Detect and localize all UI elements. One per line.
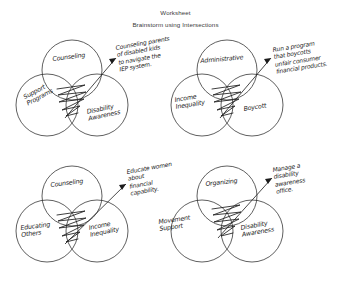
- venn-top-right-label-bottom-left: Income Inequality: [174, 91, 205, 109]
- venn-top-right-annotation: Run a program that boycotts unfair consu…: [272, 38, 328, 75]
- page-title: Worksheet: [0, 8, 351, 18]
- venn-top-right-circle-top: [197, 40, 257, 100]
- worksheet-header: Worksheet Brainstorm using Intersections: [0, 8, 351, 30]
- worksheet-page: Worksheet Brainstorm using Intersections: [0, 0, 351, 294]
- venn-top-left-arrowhead-icon: [109, 58, 116, 64]
- venn-bottom-left-circle-top: [42, 166, 102, 226]
- venn-top-left-label-bottom-left: Support Programs: [22, 81, 54, 107]
- page-subtitle: Brainstorm using Intersections: [0, 20, 351, 30]
- venn-bottom-right-label-top: Organizing: [205, 177, 238, 187]
- venn-top-right-label-top: Administrative: [200, 53, 244, 64]
- venn-top-left-label-bottom-right: Disability Awareness: [86, 101, 121, 121]
- venn-top-right-label-bottom-right: Boycott: [243, 101, 267, 111]
- venn-bottom-right-arrowhead-icon: [265, 178, 272, 184]
- venn-bottom-right-label-bottom-right: Disability Awareness: [240, 218, 274, 237]
- venn-top-left-annotation: Counseling parents of disabled kids to n…: [115, 35, 174, 74]
- venn-top-left-label-top: Counseling: [52, 51, 85, 62]
- venn-bottom-left-label-bottom-right: Income Inequality: [88, 218, 119, 237]
- venn-bottom-right-circle-bottom-left: [171, 200, 233, 262]
- venn-bottom-right-circle-top: [197, 166, 257, 226]
- venn-bottom-left-arrowhead-icon: [119, 184, 126, 190]
- venn-bottom-right-annotation: Manage a disability awareness office.: [272, 161, 307, 195]
- venn-bottom-left-label-top: Counseling: [50, 177, 83, 188]
- venn-bottom-right-intersection-scribble: [212, 205, 241, 236]
- venn-bottom-left-label-bottom-left: Educating Others: [20, 220, 51, 238]
- venn-bottom-left-intersection-scribble: [57, 211, 86, 242]
- venn-top-right-arrowhead-icon: [264, 58, 271, 64]
- venn-bottom-left-annotation: Educate women about financial capability…: [126, 160, 176, 197]
- venn-top-left-intersection-scribble: [57, 85, 86, 116]
- venn-bottom-right-label-bottom-left: Movement Support: [158, 214, 191, 232]
- venn-top-right-intersection-scribble: [212, 85, 241, 116]
